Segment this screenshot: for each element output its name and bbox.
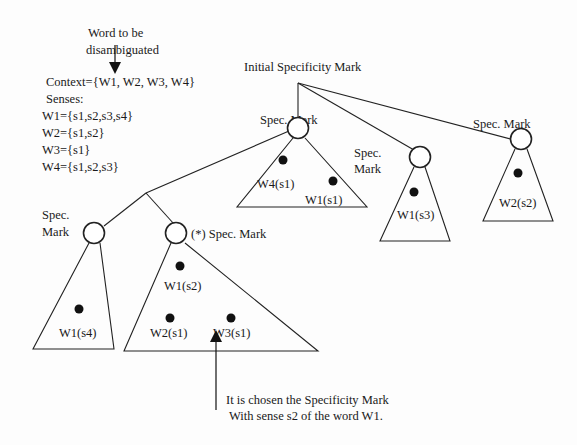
spec-mark-w1s3-label-line1: Spec.	[354, 146, 381, 160]
subtree-middle-triangle	[237, 138, 367, 207]
spec-mark-left-node	[84, 223, 105, 244]
specificity-mark-diagram: Word to be disambiguated Context={W1, W2…	[0, 0, 577, 445]
leaf-dot-w4s1	[279, 156, 288, 165]
sense-w2: W2={s1,s2}	[42, 126, 104, 140]
word-arrow-head-icon	[109, 62, 121, 74]
note-line2: With sense s2 of the word W1.	[229, 409, 383, 423]
subtree-w1s3-triangle	[380, 167, 450, 241]
spec-mark-left-label-line1: Spec.	[42, 208, 69, 222]
leaf-dot-w2s1	[166, 314, 175, 323]
subtree-right-triangle	[483, 149, 553, 221]
spec-mark-chosen-node	[166, 223, 187, 244]
sense-w4: W4={s1,s2,s3}	[42, 160, 119, 174]
spec-mark-w1s3-node	[410, 147, 431, 168]
leaf-dot-w1s1	[329, 177, 338, 186]
leaf-dot-w1s3	[410, 188, 419, 197]
spec-mark-middle-node	[288, 118, 309, 139]
leaf-label-w4s1: W4(s1)	[257, 177, 295, 191]
context-title: Context={W1, W2, W3, W4}	[46, 75, 195, 89]
leaf-label-w2s1: W2(s1)	[150, 326, 188, 340]
leaf-label-w1s2: W1(s2)	[164, 279, 202, 293]
leaf-label-w2s2: W2(s2)	[499, 196, 537, 210]
leaf-dot-w2s2	[514, 169, 523, 178]
sense-w1: W1={s1,s2,s3,s4}	[42, 109, 133, 123]
leaf-label-w1s3: W1(s3)	[397, 208, 435, 222]
leaf-dot-w1s2	[176, 262, 185, 271]
senses-label: Senses:	[46, 92, 84, 106]
note-line1: It is chosen the Specificity Mark	[226, 393, 390, 407]
spec-mark-chosen-label: (*) Spec. Mark	[191, 227, 267, 241]
spec-mark-right-node	[511, 129, 532, 150]
spec-mark-left-label-line2: Mark	[42, 225, 70, 239]
leaf-dot-w1s4	[75, 305, 84, 314]
leaf-label-w1s1: W1(s1)	[305, 193, 343, 207]
leaf-label-w1s4: W1(s4)	[59, 326, 97, 340]
initial-specificity-mark-label: Initial Specificity Mark	[244, 60, 362, 74]
word-to-disambiguate-label-line2: disambiguated	[86, 43, 160, 57]
sense-w3: W3={s1}	[42, 143, 90, 157]
spec-mark-w1s3-label-line2: Mark	[354, 162, 382, 176]
leaf-dot-w3s1	[227, 314, 236, 323]
word-to-disambiguate-label-line1: Word to be	[88, 26, 144, 40]
